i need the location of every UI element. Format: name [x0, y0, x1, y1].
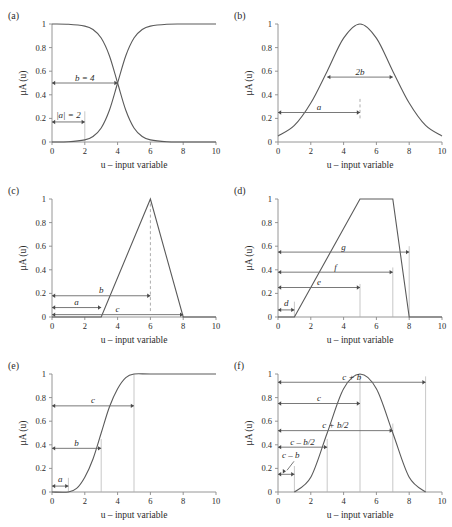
plot-e: 024681000.20.40.60.81cbau – input variab… — [0, 350, 226, 526]
x-tick-label: 6 — [374, 321, 378, 331]
x-tick-label: 10 — [212, 321, 221, 331]
curve-gaussian — [278, 24, 442, 136]
svg-text:c + b: c + b — [342, 372, 362, 382]
y-tick-label: 1 — [42, 369, 46, 379]
annotation-e-2: a — [52, 474, 68, 488]
plot-d: 024681000.20.40.60.81gfedu – input varia… — [226, 175, 452, 351]
x-tick-label: 10 — [438, 496, 447, 506]
y-tick-label: 0 — [42, 137, 46, 147]
panel-c: (c)024681000.20.40.60.81bacu – input var… — [0, 175, 226, 351]
x-tick-label: 0 — [50, 146, 54, 156]
svg-text:f: f — [334, 262, 338, 272]
panel-f: (f)024681000.20.40.60.81c + bcc + b/2c –… — [226, 350, 452, 526]
x-tick-label: 6 — [148, 321, 152, 331]
x-tick-label: 4 — [115, 321, 120, 331]
svg-text:c: c — [116, 304, 120, 314]
x-tick-label: 6 — [148, 146, 152, 156]
svg-text:b: b — [99, 285, 104, 295]
annotation-f-1: c — [278, 393, 360, 406]
svg-text:a: a — [74, 297, 79, 307]
svg-text:c – b/2: c – b/2 — [290, 437, 315, 447]
annotation-c-2: c — [52, 304, 183, 317]
annotation-e-1: b — [52, 438, 101, 451]
y-tick-label: 0.8 — [261, 393, 272, 403]
x-tick-label: 0 — [276, 496, 280, 506]
annotation-b-0: 2b — [327, 67, 393, 80]
y-tick-label: 0.6 — [35, 416, 46, 426]
figure-container: (a)024681000.20.40.60.81b = 4|a| = 2u – … — [0, 0, 452, 527]
annotation-f-4: c – b — [278, 450, 300, 476]
x-axis-label: u – input variable — [327, 160, 394, 170]
svg-text:c: c — [91, 395, 95, 405]
x-tick-label: 6 — [374, 496, 378, 506]
annotation-d-3: d — [278, 298, 294, 312]
x-tick-label: 8 — [181, 496, 185, 506]
x-axis-label: u – input variable — [101, 160, 168, 170]
x-axis-label: u – input variable — [101, 510, 168, 520]
y-tick-label: 1 — [42, 19, 46, 29]
y-tick-label: 1 — [268, 369, 272, 379]
x-tick-label: 2 — [309, 496, 313, 506]
x-tick-label: 2 — [83, 146, 87, 156]
x-tick-label: 4 — [115, 146, 120, 156]
y-tick-label: 0.4 — [35, 265, 46, 275]
x-tick-label: 6 — [374, 146, 378, 156]
annotation-f-2: c + b/2 — [278, 420, 393, 433]
panel-b: (b)024681000.20.40.60.812bau – input var… — [226, 0, 452, 176]
y-tick-label: 0.6 — [261, 416, 272, 426]
annotation-a-1: |a| = 2 — [52, 110, 85, 124]
y-tick-label: 0.4 — [261, 90, 272, 100]
y-axis-label: μA (u) — [244, 71, 255, 96]
x-tick-label: 8 — [181, 146, 185, 156]
svg-text:b: b — [74, 438, 79, 448]
svg-text:|a| = 2: |a| = 2 — [56, 110, 81, 120]
y-tick-label: 0.6 — [35, 66, 46, 76]
y-tick-label: 0.6 — [261, 241, 272, 251]
svg-text:a: a — [317, 102, 322, 112]
x-tick-label: 2 — [83, 496, 87, 506]
y-tick-label: 0.6 — [261, 66, 272, 76]
svg-text:d: d — [284, 298, 289, 308]
y-tick-label: 1 — [268, 194, 272, 204]
y-tick-label: 0.4 — [35, 90, 46, 100]
y-tick-label: 0.8 — [35, 43, 46, 53]
x-tick-label: 8 — [407, 321, 411, 331]
x-tick-label: 2 — [309, 146, 313, 156]
y-tick-label: 0.2 — [35, 113, 46, 123]
y-tick-label: 0.2 — [261, 113, 272, 123]
panel-d: (d)024681000.20.40.60.81gfedu – input va… — [226, 175, 452, 351]
x-tick-label: 8 — [407, 146, 411, 156]
x-tick-label: 10 — [212, 496, 221, 506]
y-tick-label: 0.8 — [35, 218, 46, 228]
x-tick-label: 8 — [181, 321, 185, 331]
y-tick-label: 0.2 — [261, 288, 272, 298]
y-tick-label: 0 — [268, 137, 272, 147]
plot-a: 024681000.20.40.60.81b = 4|a| = 2u – inp… — [0, 0, 226, 176]
x-tick-label: 10 — [212, 146, 221, 156]
y-tick-label: 0.2 — [35, 288, 46, 298]
plot-f: 024681000.20.40.60.81c + bcc + b/2c – b/… — [226, 350, 452, 526]
x-tick-label: 6 — [148, 496, 152, 506]
annotation-c-0: b — [52, 285, 150, 298]
y-tick-label: 0.2 — [261, 463, 272, 473]
x-tick-label: 10 — [438, 146, 447, 156]
y-axis-label: μA (u) — [244, 421, 255, 446]
y-tick-label: 0.4 — [261, 440, 272, 450]
panel-a: (a)024681000.20.40.60.81b = 4|a| = 2u – … — [0, 0, 226, 176]
svg-text:b = 4: b = 4 — [75, 73, 95, 83]
annotation-d-2: e — [278, 277, 360, 290]
plot-c: 024681000.20.40.60.81bacu – input variab… — [0, 175, 226, 351]
x-tick-label: 0 — [276, 146, 280, 156]
x-tick-label: 0 — [50, 496, 54, 506]
svg-text:2b: 2b — [356, 67, 366, 77]
svg-text:c: c — [317, 393, 321, 403]
plot-b: 024681000.20.40.60.812bau – input variab… — [226, 0, 452, 176]
y-tick-label: 0 — [42, 312, 46, 322]
y-tick-label: 0 — [268, 312, 272, 322]
annotation-b-1: a — [278, 102, 360, 115]
annotation-d-0: g — [278, 242, 409, 255]
x-axis-label: u – input variable — [327, 510, 394, 520]
x-tick-label: 0 — [276, 321, 280, 331]
annotation-e-0: c — [52, 395, 134, 408]
y-axis-label: μA (u) — [18, 246, 29, 271]
